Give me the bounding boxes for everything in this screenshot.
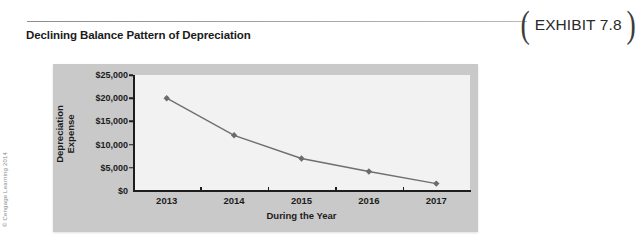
data-point-marker <box>164 95 170 101</box>
chart-panel: $0$5,000$10,000$15,000$20,000$25,000 201… <box>53 64 478 232</box>
y-axis-tick-label: $25,000 <box>95 70 133 80</box>
x-axis-tick-label: 2013 <box>156 195 177 206</box>
left-paren-icon: ( <box>521 9 530 41</box>
x-axis-tick-label: 2017 <box>426 195 447 206</box>
data-point-marker <box>298 155 304 161</box>
copyright-notice: © Cengage Learning 2014 <box>2 152 8 227</box>
y-axis-tick-label: $0 <box>118 186 133 196</box>
page-title: Declining Balance Pattern of Depreciatio… <box>26 29 251 41</box>
data-point-marker <box>433 180 439 186</box>
y-axis-tick-label: $10,000 <box>95 140 133 150</box>
y-axis-title: DepreciationExpense <box>55 76 75 192</box>
x-axis-tick-label: 2015 <box>291 195 312 206</box>
x-axis-tick-label: 2016 <box>358 195 379 206</box>
x-axis-tick-label: 2014 <box>224 195 245 206</box>
header-divider <box>27 21 527 22</box>
data-point-marker <box>366 168 372 174</box>
exhibit-badge: ( EXHIBIT 7.8 ) <box>519 9 637 41</box>
y-axis-tick-label: $15,000 <box>95 116 133 126</box>
data-point-marker <box>231 132 237 138</box>
y-axis-tick-label: $20,000 <box>95 93 133 103</box>
series-line-chart <box>133 75 470 191</box>
x-axis-title: During the Year <box>133 210 470 221</box>
exhibit-label: EXHIBIT 7.8 <box>532 16 625 34</box>
right-paren-icon: ) <box>626 9 635 41</box>
series-line <box>167 98 437 183</box>
y-axis-title-text: DepreciationExpense <box>54 105 76 163</box>
